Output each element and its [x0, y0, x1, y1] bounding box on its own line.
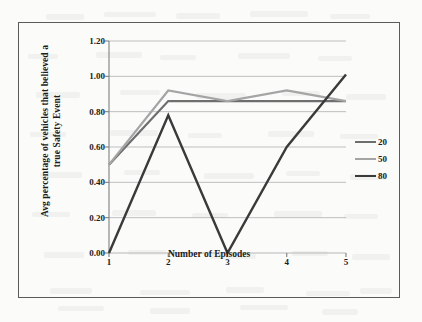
series-line-20 — [109, 101, 346, 165]
y-tick-label: 1.20 — [71, 36, 105, 46]
scan-artifact — [322, 309, 358, 315]
plot-area — [109, 41, 346, 253]
legend-label: 50 — [378, 154, 387, 164]
y-tick-label: 0.40 — [71, 177, 105, 187]
scan-artifact — [58, 306, 104, 311]
scan-artifact — [240, 305, 288, 310]
plot-svg — [109, 41, 346, 253]
legend-item: 20 — [355, 133, 401, 150]
scan-artifact — [150, 308, 190, 314]
y-tick-label: 1.00 — [71, 71, 105, 81]
x-axis-title: Number of Episodes — [19, 249, 399, 259]
scan-artifact — [250, 11, 308, 17]
y-axis-title-line-2: true Safety Event — [52, 95, 62, 167]
legend-line-swatch — [355, 158, 376, 160]
scan-artifact — [46, 14, 84, 20]
legend-item: 80 — [355, 167, 401, 184]
x-axis-tick-labels: 12345 — [109, 257, 346, 271]
y-tick-label: 0.20 — [71, 213, 105, 223]
chart-canvas: Avg percentage of vehicles that believed… — [19, 23, 399, 297]
legend-label: 80 — [378, 171, 387, 181]
chart-figure-frame: Avg percentage of vehicles that believed… — [18, 22, 400, 298]
legend-line-swatch — [355, 175, 376, 177]
y-tick-label: 0.80 — [71, 107, 105, 117]
legend-item: 50 — [355, 150, 401, 167]
scan-artifact — [176, 13, 220, 19]
scan-artifact — [104, 12, 156, 17]
y-axis-tick-labels: 0.000.200.400.600.801.001.20 — [67, 41, 105, 253]
scan-artifact — [330, 14, 370, 19]
legend-line-swatch — [355, 141, 376, 143]
y-axis-title-line-1: Avg percentage of vehicles that believed… — [40, 45, 50, 217]
chart-legend: 205080 — [355, 133, 401, 184]
legend-label: 20 — [378, 137, 387, 147]
y-axis-title: Avg percentage of vehicles that believed… — [39, 23, 63, 239]
y-tick-label: 0.60 — [71, 142, 105, 152]
